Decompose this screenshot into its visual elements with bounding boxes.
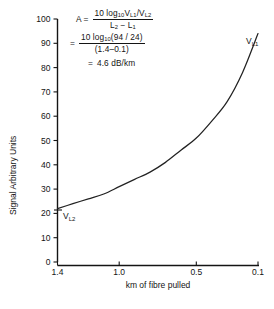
formula-line-3-lhs: = [88, 59, 93, 68]
formula-line-2-denominator: (1.4–0.1) [95, 44, 129, 54]
formula-line-1-den-l2-sub: 2 [115, 24, 118, 30]
y-tick-label: 40 [41, 160, 51, 170]
formula-annotation-block: A = 10 log10VL1/VL2 L2 − L1 = 10 log10(9… [62, 9, 212, 68]
x-tick-label: 1.0 [113, 267, 125, 277]
y-tick-label: 90 [41, 38, 51, 48]
x-tick-label: 1.4 [52, 267, 64, 277]
formula-line-1-num-v1-sub: L1 [130, 12, 137, 18]
x-tick-label: 0.5 [190, 267, 202, 277]
y-tick-label: 10 [41, 233, 51, 243]
formula-line-2-numerator: 10 log10(94 / 24) [79, 33, 145, 44]
x-axis-title: km of fibre pulled [126, 280, 191, 290]
y-tick-label: 0 [46, 257, 51, 267]
formula-line-1-denominator: L2 − L1 [110, 20, 136, 30]
formula-line-2-num-prefix: 10 log [81, 32, 104, 42]
chart-figure: 0102030405060708090100 1.41.00.50.1 VL1 … [0, 0, 274, 309]
formula-line-2-num-args: (94 / 24) [111, 32, 143, 42]
y-tick-label: 70 [41, 87, 51, 97]
formula-line-2-lhs: = [70, 39, 75, 48]
x-tick-label: 0.1 [252, 267, 264, 277]
formula-line-1-numerator: 10 log10VL1/VL2 [93, 9, 154, 20]
formula-line-2: = 10 log10(94 / 24) (1.4–0.1) [70, 33, 212, 53]
y-tick-label: 20 [41, 208, 51, 218]
y-axis-title: Signal Arbitrary Units [8, 136, 18, 215]
formula-line-2-fraction: 10 log10(94 / 24) (1.4–0.1) [79, 33, 145, 53]
formula-line-1: A = 10 log10VL1/VL2 L2 − L1 [76, 9, 212, 29]
y-tick-label: 60 [41, 111, 51, 121]
formula-line-1-lhs: A = [76, 15, 89, 24]
formula-line-1-den-minus: − [120, 20, 125, 30]
formula-line-1-num-prefix: 10 log [95, 8, 118, 18]
y-tick-label: 100 [36, 14, 50, 24]
formula-line-2-log-base: 10 [104, 37, 111, 43]
formula-line-1-den-l1-sub: 1 [133, 24, 136, 30]
formula-line-1-fraction: 10 log10VL1/VL2 L2 − L1 [93, 9, 154, 29]
y-tick-label: 50 [41, 136, 51, 146]
y-tick-label: 30 [41, 184, 51, 194]
formula-line-1-num-v2-sub: L2 [145, 12, 152, 18]
formula-line-3: = 4.6 dB/km [88, 59, 212, 68]
formula-line-3-value: 4.6 dB/km [97, 59, 135, 68]
y-tick-label: 80 [41, 63, 51, 73]
